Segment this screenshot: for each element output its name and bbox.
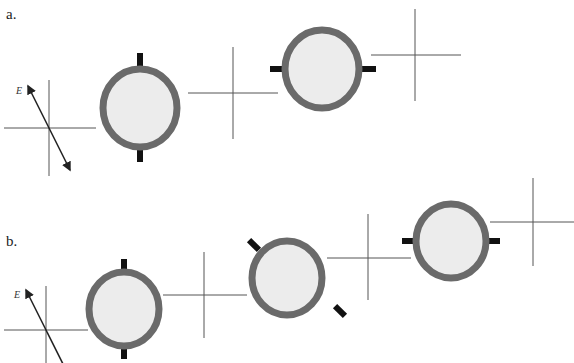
efield-axes-b: E⃗ xyxy=(4,286,88,363)
polarizer-disk xyxy=(89,272,159,346)
part-a: E⃗ xyxy=(4,9,461,176)
polarizer-a2 xyxy=(270,30,376,108)
part-b: E⃗ xyxy=(4,178,574,363)
axis-tab-top-left xyxy=(247,238,261,252)
axes-a3 xyxy=(371,9,461,101)
axis-tab-right xyxy=(362,66,376,72)
polarizer-disk xyxy=(103,69,177,147)
polarizer-a1 xyxy=(103,53,177,162)
axis-tab-bottom-right xyxy=(333,304,347,318)
polarizer-disk xyxy=(285,30,359,108)
polarizer-b2 xyxy=(247,238,347,318)
axes-b3 xyxy=(327,214,411,300)
efield-arrow-down xyxy=(46,330,64,363)
polarizer-disk xyxy=(252,241,322,315)
efield-arrow-up xyxy=(28,86,49,128)
efield-label: E⃗ xyxy=(15,85,30,96)
axes-a2 xyxy=(188,47,278,139)
polarizer-disk xyxy=(416,204,486,278)
axes-b2 xyxy=(163,252,247,338)
polarizer-b3 xyxy=(402,204,500,278)
efield-arrow-down xyxy=(49,128,70,170)
axis-tab-top xyxy=(137,53,143,67)
efield-label: E⃗ xyxy=(13,289,28,300)
axes-b4 xyxy=(490,178,574,266)
polarizer-diagram: E⃗ E⃗ xyxy=(0,0,574,363)
efield-arrow-up xyxy=(26,290,46,330)
efield-axes-a: E⃗ xyxy=(4,80,96,176)
polarizer-b1 xyxy=(89,259,159,359)
